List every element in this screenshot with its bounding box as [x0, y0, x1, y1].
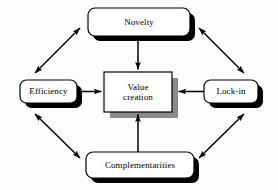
node-efficiency[interactable]: [20, 80, 77, 103]
connector-efficiency-novelty: [35, 28, 80, 73]
connector-efficiency-complementarities: [35, 114, 80, 158]
node-novelty[interactable]: [88, 8, 190, 36]
diagram-canvas: [0, 0, 278, 190]
node-value-creation[interactable]: [104, 72, 172, 112]
node-complementarities[interactable]: [86, 152, 194, 178]
value-creation-diagram: Novelty Efficiency Lock-in Complementari…: [0, 0, 278, 190]
connector-novelty-lock-in: [199, 28, 244, 73]
connector-complementarities-lock-in: [199, 114, 244, 158]
node-bodies: [20, 8, 258, 178]
node-lock-in[interactable]: [204, 80, 258, 103]
